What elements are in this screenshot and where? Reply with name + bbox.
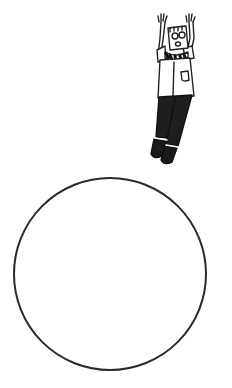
- illustration-scene: [0, 0, 232, 388]
- head-icon: [168, 26, 188, 50]
- cartoon-man-figure: [151, 14, 195, 164]
- empty-circle-shape: [14, 178, 206, 370]
- illustration-canvas: [0, 0, 232, 388]
- shirt-icon: [158, 58, 194, 98]
